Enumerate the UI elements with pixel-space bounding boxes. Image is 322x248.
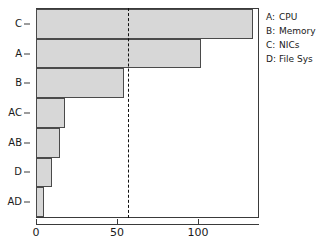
y-tick-mark-d [24, 172, 30, 173]
y-tick-label-b: B [15, 78, 22, 88]
legend-key: D: [266, 52, 279, 66]
bar-b [36, 68, 124, 98]
legend-label: Memory [279, 24, 316, 38]
threshold-line [128, 8, 129, 218]
x-tick-mark-100 [198, 219, 199, 224]
legend-label: File Sys [279, 52, 313, 66]
x-tick-label-0: 0 [33, 227, 40, 239]
bar-d [36, 158, 52, 188]
y-tick-label-ad: AD [7, 197, 22, 207]
legend-item: C:NICs [266, 38, 322, 52]
y-tick-mark-a [24, 53, 30, 54]
bars-layer [36, 9, 258, 217]
y-axis: CABACABDAD [0, 9, 30, 217]
y-tick-label-ab: AB [8, 138, 22, 148]
legend-label: NICs [279, 38, 299, 52]
legend-item: D:File Sys [266, 52, 322, 66]
x-tick-mark-0 [36, 219, 37, 224]
x-tick-mark-50 [117, 219, 118, 224]
y-tick-label-a: A [15, 49, 22, 59]
x-tick-label-100: 100 [188, 227, 209, 239]
x-axis-line [36, 224, 259, 225]
y-tick-mark-ad [24, 202, 30, 203]
legend-label: CPU [279, 10, 297, 24]
y-tick-label-ac: AC [8, 108, 22, 118]
pareto-bar-chart: CABACABDAD 050100 A:CPUB:MemoryC:NICsD:F… [0, 0, 322, 248]
legend-item: A:CPU [266, 10, 322, 24]
y-tick-mark-ab [24, 142, 30, 143]
legend-item: B:Memory [266, 24, 322, 38]
legend-key: C: [266, 38, 279, 52]
y-tick-label-d: D [14, 167, 22, 177]
legend-key: B: [266, 24, 279, 38]
y-tick-mark-b [24, 83, 30, 84]
legend-key: A: [266, 10, 279, 24]
x-tick-label-50: 50 [110, 227, 124, 239]
bar-ac [36, 98, 65, 128]
y-tick-mark-ac [24, 113, 30, 114]
y-tick-mark-c [24, 23, 30, 24]
legend: A:CPUB:MemoryC:NICsD:File Sys [266, 10, 322, 66]
bar-a [36, 39, 201, 69]
bar-c [36, 9, 253, 39]
bar-ad [36, 187, 44, 217]
y-tick-label-c: C [15, 19, 22, 29]
bar-ab [36, 128, 60, 158]
